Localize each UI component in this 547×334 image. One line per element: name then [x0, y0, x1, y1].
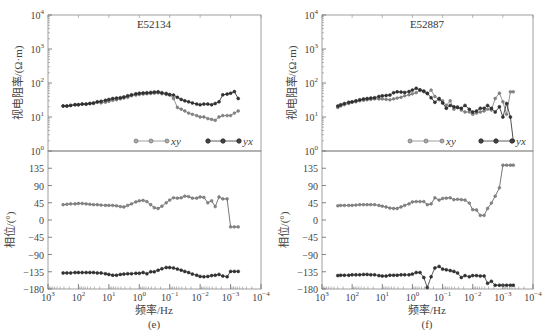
panel-f-phase-ylabel: 相位/(°) [277, 211, 291, 248]
svg-text:103: 103 [305, 42, 319, 55]
legend-xy: xy [134, 135, 181, 147]
panel-f: E52887 100101102103104 xy yx [277, 8, 542, 331]
svg-text:45: 45 [34, 198, 44, 209]
svg-text:10−1: 10−1 [161, 290, 179, 303]
panel-f-phase-series [336, 164, 515, 289]
legend-yx-marker-icon [206, 139, 210, 143]
svg-text:104: 104 [305, 8, 319, 21]
panel-f-rho-axis: 100101102103104 [305, 8, 327, 157]
svg-text:100: 100 [31, 144, 45, 157]
svg-text:101: 101 [376, 290, 390, 303]
svg-text:−90: −90 [28, 250, 44, 261]
svg-text:103: 103 [31, 42, 45, 55]
svg-text:10−4: 10−4 [524, 290, 542, 303]
panel-f-legend: xy yx [408, 135, 526, 147]
svg-text:−135: −135 [297, 267, 318, 278]
panel-e-x-axis: 10310210110010−110−210−310−4 [41, 15, 270, 303]
svg-text:101: 101 [31, 110, 45, 123]
svg-text:−135: −135 [23, 267, 44, 278]
panel-e-resistivity-plot: E52134 100101102103104 xy yx [11, 8, 261, 157]
panel-e-phase-series [62, 195, 240, 278]
svg-text:0: 0 [39, 215, 44, 226]
panel-e-rho-series [62, 90, 240, 122]
panel-e-phase-plot: 13590450−45−90−135−180 相位/(°) [3, 151, 261, 295]
panel-f-xlabel: 频率/Hz [408, 303, 446, 316]
panel-e-rho-ylabel: 视电阻率/(Ω·m) [11, 45, 25, 120]
svg-text:−45: −45 [28, 232, 44, 243]
panel-f-resistivity-plot: E52887 100101102103104 xy yx [285, 8, 533, 157]
svg-text:103: 103 [315, 290, 329, 303]
legend-xy-label: xy [445, 135, 456, 147]
legend-yx-label: yx [242, 135, 253, 147]
svg-text:101: 101 [305, 110, 319, 123]
svg-text:0: 0 [313, 215, 318, 226]
panel-f-rho-ylabel: 视电阻率/(Ω·m) [285, 45, 299, 120]
svg-text:101: 101 [102, 290, 116, 303]
panel-e-rho-axis: 100101102103104 [31, 8, 53, 157]
svg-text:102: 102 [72, 290, 86, 303]
svg-text:100: 100 [406, 290, 420, 303]
legend-xy-label: xy [170, 135, 181, 147]
svg-text:10−4: 10−4 [252, 290, 270, 303]
svg-text:103: 103 [41, 290, 55, 303]
panel-e-phase-ylabel: 相位/(°) [3, 211, 17, 248]
legend-yx: yx [479, 135, 526, 147]
svg-text:45: 45 [308, 198, 318, 209]
legend-yx: yx [206, 135, 253, 147]
panel-f-title: E52887 [410, 18, 445, 30]
svg-text:104: 104 [31, 8, 45, 21]
panel-e-legend: xy yx [134, 135, 253, 147]
legend-xy: xy [408, 135, 456, 147]
svg-text:10−2: 10−2 [464, 290, 482, 303]
panel-f-rho-series [336, 87, 515, 143]
panel-e-caption: (e) [148, 318, 161, 331]
panel-e-title: E52134 [137, 18, 172, 30]
svg-text:90: 90 [308, 181, 318, 192]
svg-text:−90: −90 [302, 250, 318, 261]
svg-text:102: 102 [31, 76, 45, 89]
figure: E52134 100101102103104 xy yx [0, 0, 547, 334]
svg-text:10−3: 10−3 [222, 290, 240, 303]
panel-f-x-axis: 10310210110010−110−210−310−4 [315, 15, 542, 303]
svg-text:135: 135 [29, 163, 44, 174]
panel-f-phase-plot: 13590450−45−90−135−180 相位/(°) [277, 151, 533, 295]
panel-e-xlabel: 频率/Hz [135, 303, 173, 316]
svg-text:10−1: 10−1 [434, 290, 452, 303]
legend-xy-marker-icon [408, 139, 412, 143]
svg-text:10−2: 10−2 [191, 290, 209, 303]
legend-xy-marker-icon [134, 139, 138, 143]
svg-text:102: 102 [345, 290, 359, 303]
svg-text:−45: −45 [302, 232, 318, 243]
svg-text:90: 90 [34, 181, 44, 192]
panel-e: E52134 100101102103104 xy yx [3, 8, 270, 331]
svg-text:135: 135 [303, 163, 318, 174]
legend-yx-marker-icon [479, 139, 483, 143]
svg-text:100: 100 [305, 144, 319, 157]
svg-text:10−3: 10−3 [494, 290, 512, 303]
legend-yx-label: yx [515, 135, 526, 147]
svg-text:100: 100 [133, 290, 147, 303]
svg-text:102: 102 [305, 76, 319, 89]
panel-f-caption: (f) [422, 318, 433, 331]
